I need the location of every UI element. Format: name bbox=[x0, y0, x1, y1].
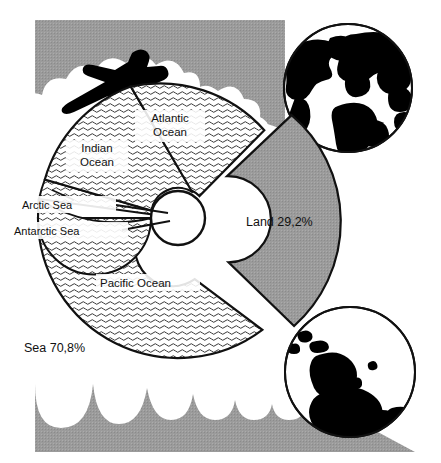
label-antarctic-sea: Antarctic Sea bbox=[10, 222, 128, 239]
label-pacific-ocean-text: Pacific Ocean bbox=[100, 277, 171, 289]
label-indian-ocean: Indian Ocean bbox=[66, 140, 128, 172]
label-indian-line1: Indian bbox=[81, 142, 112, 154]
label-atlantic-line1: Atlantic bbox=[151, 112, 189, 124]
label-sea-percent: Sea 70,8% bbox=[24, 341, 85, 355]
label-arctic-sea-text: Arctic Sea bbox=[22, 199, 73, 211]
pie-center-hole bbox=[151, 191, 205, 245]
infographic-svg: Atlantic Ocean Indian Ocean Arctic Sea A… bbox=[0, 0, 441, 463]
label-atlantic-ocean: Atlantic Ocean bbox=[135, 110, 205, 142]
label-antarctic-sea-text: Antarctic Sea bbox=[14, 225, 80, 237]
label-arctic-sea: Arctic Sea bbox=[18, 196, 116, 213]
label-pacific-ocean: Pacific Ocean bbox=[96, 274, 200, 291]
figure-canvas: Atlantic Ocean Indian Ocean Arctic Sea A… bbox=[0, 0, 441, 463]
label-indian-line2: Ocean bbox=[80, 156, 114, 168]
label-land-percent: Land 29,2% bbox=[246, 215, 313, 229]
label-atlantic-line2: Ocean bbox=[153, 126, 187, 138]
